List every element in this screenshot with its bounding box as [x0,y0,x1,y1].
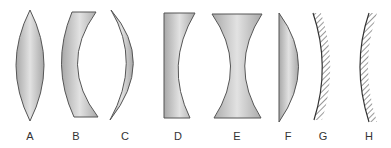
lens-f-plano-convex [279,13,299,122]
mirror-g-hatching [313,13,330,120]
label-a: A [20,130,40,142]
label-b: B [66,130,86,142]
lens-c-convex-meniscus [110,10,133,120]
lens-e-biconcave [212,14,262,118]
label-h: H [359,130,379,142]
lens-b-concave-meniscus [61,12,98,117]
label-e: E [227,130,247,142]
label-g: G [313,130,333,142]
label-f: F [278,130,298,142]
label-d: D [168,130,188,142]
lens-d-plano-concave [164,13,195,118]
lens-diagram [0,0,391,148]
lens-a-biconvex [16,10,44,121]
mirror-h-hatching [360,13,377,122]
label-c: C [115,130,135,142]
